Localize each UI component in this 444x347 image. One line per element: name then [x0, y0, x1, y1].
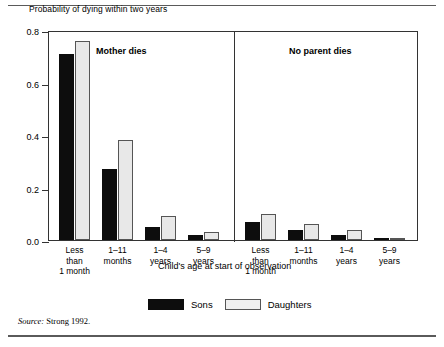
y-axis-title: Probability of dying within two years	[29, 4, 167, 14]
bar-sons-2-p0	[145, 227, 160, 240]
y-tick-label: 0.2	[26, 185, 39, 195]
panel-title-no-parent-dies: No parent dies	[289, 46, 352, 56]
plot-area: Mother dies No parent dies 0.00.20.40.60…	[48, 31, 418, 241]
legend: Sons Daughters	[148, 299, 312, 310]
bar-sons-3-p1	[374, 238, 389, 240]
x-tick-label: 5–9years	[357, 245, 423, 266]
legend-item-daughters: Daughters	[225, 299, 312, 310]
bar-daughters-0-p1	[261, 214, 276, 240]
y-tick-label: 0.0	[26, 237, 39, 247]
y-tick-mark	[42, 85, 49, 86]
y-tick-mark	[42, 242, 49, 243]
bar-sons-0-p0	[59, 54, 74, 240]
panel-divider	[234, 32, 235, 242]
bar-sons-0-p1	[245, 222, 260, 240]
bar-daughters-3-p0	[204, 232, 219, 240]
y-tick-label: 0.8	[26, 27, 39, 37]
x-axis-title: Child's age at start of observation	[158, 261, 291, 271]
figure-container: Probability of dying within two years Mo…	[0, 0, 444, 347]
bar-daughters-2-p1	[347, 230, 362, 241]
y-tick-label: 0.4	[26, 132, 39, 142]
source-prefix: Source:	[18, 316, 44, 326]
legend-item-sons: Sons	[148, 299, 213, 310]
y-tick-mark	[42, 32, 49, 33]
legend-label-daughters: Daughters	[268, 299, 312, 310]
legend-label-sons: Sons	[191, 299, 213, 310]
bar-daughters-2-p0	[161, 216, 176, 240]
bar-sons-3-p0	[188, 235, 203, 240]
bar-daughters-1-p0	[118, 140, 133, 240]
bottom-rule	[8, 335, 436, 337]
bar-daughters-0-p0	[75, 41, 90, 241]
source-text: Strong 1992.	[46, 316, 90, 326]
y-tick-mark	[42, 190, 49, 191]
y-tick-mark	[42, 137, 49, 138]
bar-sons-2-p1	[331, 235, 346, 240]
legend-swatch-daughters	[225, 299, 261, 310]
bar-daughters-1-p1	[304, 224, 319, 240]
y-tick-label: 0.6	[26, 80, 39, 90]
bar-daughters-3-p1	[390, 238, 405, 240]
panel-title-mother-dies: Mother dies	[96, 46, 147, 56]
bar-sons-1-p1	[288, 230, 303, 241]
bar-sons-1-p0	[102, 169, 117, 240]
source-note: Source: Strong 1992.	[18, 316, 90, 326]
legend-swatch-sons	[148, 299, 184, 310]
